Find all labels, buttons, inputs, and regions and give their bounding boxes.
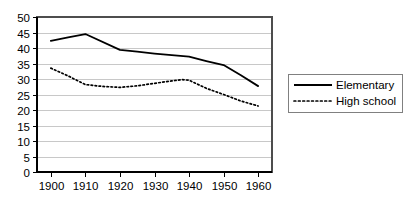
legend-label-high-school: High school <box>336 95 396 107</box>
x-tick-label-1910: 1910 <box>73 180 99 192</box>
x-tick-label-1950: 1950 <box>212 180 238 192</box>
line-chart: 05101520253035404550 1900191019201930194… <box>0 0 406 205</box>
legend: Elementary High school <box>288 74 402 112</box>
y-tick-label-30: 30 <box>17 74 30 86</box>
y-tick-label-5: 5 <box>24 152 30 164</box>
y-tick-label-35: 35 <box>17 59 30 71</box>
x-tick-label-1940: 1940 <box>177 180 203 192</box>
chart-canvas: 05101520253035404550 1900191019201930194… <box>0 0 406 205</box>
x-tick-label-1920: 1920 <box>108 180 134 192</box>
y-tick-label-20: 20 <box>17 105 30 117</box>
y-tick-label-0: 0 <box>24 167 30 179</box>
y-tick-label-40: 40 <box>17 43 30 55</box>
y-tick-label-25: 25 <box>17 90 30 102</box>
x-tick-label-1930: 1930 <box>143 180 169 192</box>
y-tick-label-10: 10 <box>17 136 30 148</box>
x-tick-label-1900: 1900 <box>39 180 65 192</box>
y-tick-label-45: 45 <box>17 28 30 40</box>
legend-label-elementary: Elementary <box>336 79 394 91</box>
y-tick-label-15: 15 <box>17 121 30 133</box>
x-axis-tick-labels: 1900191019201930194019501960 <box>39 180 272 192</box>
y-tick-label-50: 50 <box>17 12 30 24</box>
x-tick-label-1960: 1960 <box>246 180 272 192</box>
